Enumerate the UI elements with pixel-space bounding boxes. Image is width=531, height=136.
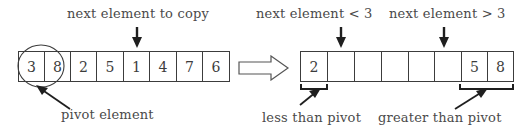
source-array: 38251476	[18, 51, 230, 82]
greater-than-pivot-callout-arrow-icon	[455, 88, 488, 109]
partitioned-array-cell-7: 8	[488, 52, 513, 81]
less-than-pivot-label: less than pivot	[262, 110, 361, 125]
greater-than-pivot-bracket	[460, 84, 513, 89]
pivot-element-label: pivot element	[61, 107, 154, 122]
partitioned-array-cell-0: 2	[301, 52, 328, 81]
source-array-cell-3: 5	[97, 52, 124, 81]
next-element-to-copy-arrow-icon	[132, 27, 142, 48]
source-array-cell-7: 6	[203, 52, 229, 81]
partitioned-array-cell-5	[435, 52, 462, 81]
partitioned-array-cell-6: 5	[462, 52, 488, 81]
right-top-label-right: next element > 3	[389, 6, 506, 21]
source-array-cell-0: 3	[19, 52, 45, 81]
less-than-pivot-callout-arrow-icon	[300, 88, 321, 105]
next-element-greater-arrow-icon	[439, 27, 449, 48]
source-array-cell-2: 2	[71, 52, 97, 81]
partitioned-array-cell-4	[409, 52, 435, 81]
partitioned-array: 258	[300, 51, 514, 82]
source-array-cell-6: 7	[177, 52, 203, 81]
pivot-element-callout-arrow-icon	[36, 85, 70, 109]
less-than-pivot-bracket	[301, 84, 327, 89]
greater-than-pivot-label: greater than pivot	[378, 110, 502, 125]
partitioned-array-cell-2	[355, 52, 382, 81]
source-array-cell-4: 1	[124, 52, 150, 81]
source-array-cell-5: 4	[150, 52, 177, 81]
right-top-label-left: next element < 3	[256, 6, 373, 21]
partitioned-array-cell-3	[382, 52, 409, 81]
left-top-label: next element to copy	[67, 6, 209, 21]
next-element-less-arrow-icon	[336, 27, 346, 48]
source-array-cell-1: 8	[45, 52, 71, 81]
partitioned-array-cell-1	[328, 52, 355, 81]
transform-block-arrow-icon	[238, 55, 290, 85]
partition-diagram: next element to copy 38251476 pivot elem…	[0, 0, 531, 136]
